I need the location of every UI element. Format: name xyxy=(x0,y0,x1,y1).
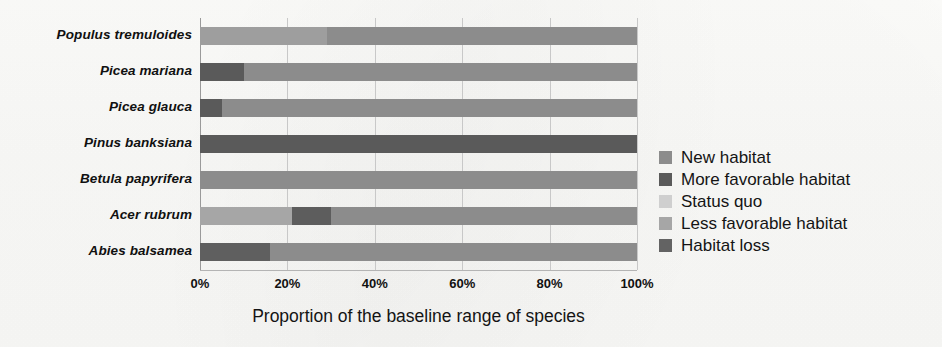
bar-segment[interactable] xyxy=(200,207,292,225)
bar-segment[interactable] xyxy=(200,243,270,261)
bar-row[interactable] xyxy=(200,207,637,225)
x-axis-title: Proportion of the baseline range of spec… xyxy=(200,306,637,327)
x-axis-line xyxy=(200,270,637,271)
bar-segment[interactable] xyxy=(200,171,637,189)
category-label: Abies balsamea xyxy=(2,243,192,258)
bar-segment[interactable] xyxy=(244,63,637,81)
legend-label: New habitat xyxy=(681,149,771,166)
category-label: Picea mariana xyxy=(2,63,192,78)
x-tick-label: 20% xyxy=(274,276,300,291)
stacked-bar-chart: Populus tremuloidesPicea marianaPicea gl… xyxy=(0,0,942,347)
bar-segment[interactable] xyxy=(331,207,637,225)
legend-item[interactable]: Less favorable habitat xyxy=(659,212,934,234)
legend-swatch-icon xyxy=(659,217,672,230)
bar-segment[interactable] xyxy=(200,27,327,45)
gridline-100% xyxy=(637,18,638,270)
legend-item[interactable]: New habitat xyxy=(659,146,934,168)
bar-segment[interactable] xyxy=(327,27,637,45)
x-tick-label: 40% xyxy=(362,276,388,291)
category-label: Pinus banksiana xyxy=(2,135,192,150)
x-tick-label: 100% xyxy=(620,276,653,291)
legend-label: Habitat loss xyxy=(681,237,770,254)
bar-segment[interactable] xyxy=(292,207,331,225)
bar-row[interactable] xyxy=(200,243,637,261)
legend-label: Status quo xyxy=(681,193,762,210)
bar-row[interactable] xyxy=(200,171,637,189)
legend-swatch-icon xyxy=(659,151,672,164)
bar-segment[interactable] xyxy=(200,135,637,153)
legend-item[interactable]: More favorable habitat xyxy=(659,168,934,190)
category-label: Betula papyrifera xyxy=(2,171,192,186)
bar-segment[interactable] xyxy=(222,99,637,117)
x-tick-label: 0% xyxy=(191,276,210,291)
bar-row[interactable] xyxy=(200,27,637,45)
bar-row[interactable] xyxy=(200,135,637,153)
plot-area xyxy=(200,18,637,270)
bar-row[interactable] xyxy=(200,99,637,117)
category-label: Picea glauca xyxy=(2,99,192,114)
x-tick-label: 80% xyxy=(537,276,563,291)
legend-swatch-icon xyxy=(659,195,672,208)
legend-label: Less favorable habitat xyxy=(681,215,847,232)
bar-segment[interactable] xyxy=(200,99,222,117)
category-label: Populus tremuloides xyxy=(2,27,192,42)
category-axis-labels: Populus tremuloidesPicea marianaPicea gl… xyxy=(0,18,192,270)
category-label: Acer rubrum xyxy=(2,207,192,222)
bar-segment[interactable] xyxy=(270,243,637,261)
bar-row[interactable] xyxy=(200,63,637,81)
chart-legend: New habitatMore favorable habitatStatus … xyxy=(659,146,934,256)
x-tick-label: 60% xyxy=(449,276,475,291)
legend-swatch-icon xyxy=(659,173,672,186)
bar-segment[interactable] xyxy=(200,63,244,81)
legend-swatch-icon xyxy=(659,239,672,252)
legend-item[interactable]: Status quo xyxy=(659,190,934,212)
legend-item[interactable]: Habitat loss xyxy=(659,234,934,256)
legend-label: More favorable habitat xyxy=(681,171,850,188)
